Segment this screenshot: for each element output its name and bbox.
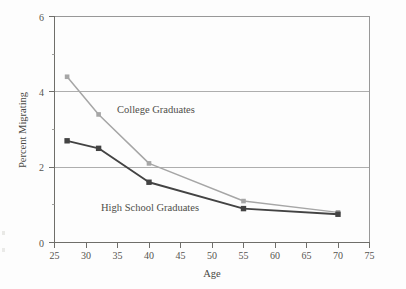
- scan-artifact: [2, 231, 5, 235]
- data-point-marker: [335, 212, 340, 217]
- scan-artifact: [2, 248, 5, 252]
- data-point-marker: [147, 161, 152, 166]
- x-tick-label-40: 40: [144, 250, 154, 261]
- y-tick-label-4: 4: [39, 87, 44, 98]
- data-point-marker: [241, 206, 246, 211]
- x-tick-label-55: 55: [239, 250, 249, 261]
- y-axis-title: Percent Migrating: [17, 91, 28, 168]
- x-tick-label-45: 45: [176, 250, 186, 261]
- x-tick-label-70: 70: [333, 250, 343, 261]
- x-tick-label-60: 60: [270, 250, 280, 261]
- x-axis-title: Age: [203, 268, 221, 279]
- x-tick-label-30: 30: [81, 250, 91, 261]
- data-series-layer: [64, 74, 340, 216]
- data-point-marker: [146, 180, 151, 185]
- data-point-marker: [241, 199, 246, 204]
- x-tick-label-50: 50: [207, 250, 217, 261]
- y-tick-label-2: 2: [39, 162, 44, 173]
- series-line: [67, 77, 338, 213]
- migration-by-age-line-chart: 6 4 2 0 Percent Migrating 25 30 35 40 45…: [0, 0, 406, 289]
- y-tick-label-6: 6: [39, 12, 44, 23]
- data-point-marker: [96, 146, 101, 151]
- data-point-marker: [64, 138, 69, 143]
- figure-canvas: 6 4 2 0 Percent Migrating 25 30 35 40 45…: [0, 0, 406, 289]
- series-label-highschool: High School Graduates: [101, 202, 199, 213]
- y-tick-label-0: 0: [39, 238, 44, 249]
- series-label-college: College Graduates: [117, 104, 195, 115]
- x-tick-label-25: 25: [50, 250, 60, 261]
- x-tick-label-35: 35: [113, 250, 123, 261]
- data-point-marker: [65, 74, 70, 79]
- data-point-marker: [96, 112, 101, 117]
- x-tick-label-75: 75: [365, 250, 375, 261]
- x-tick-label-65: 65: [302, 250, 312, 261]
- series-college-graduates: [65, 74, 341, 214]
